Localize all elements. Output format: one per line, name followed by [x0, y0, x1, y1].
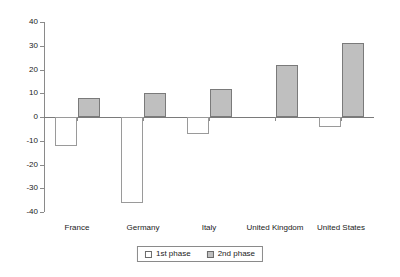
legend-label: 2nd phase	[218, 250, 255, 258]
bar-phase2[interactable]	[342, 43, 364, 117]
y-axis-tick-label: 0	[34, 113, 38, 121]
plot-area: 403020100-10-20-30-40 FranceGermanyItaly…	[44, 22, 374, 212]
bar-phase2[interactable]	[276, 65, 298, 117]
bar-chart: 403020100-10-20-30-40 FranceGermanyItaly…	[0, 0, 400, 277]
y-axis-tick-label: 10	[29, 89, 38, 97]
legend-label: 1st phase	[156, 250, 191, 258]
bar-group: France	[44, 22, 110, 212]
bar-phase1[interactable]	[319, 117, 341, 127]
y-axis-tick-label: 40	[29, 18, 38, 26]
y-axis-tick-label: 30	[29, 42, 38, 50]
bar-group: Italy	[176, 22, 242, 212]
x-axis-label: France	[65, 224, 90, 232]
x-axis-tick	[77, 117, 78, 121]
bar-phase1[interactable]	[121, 117, 143, 203]
x-axis-label: Italy	[202, 224, 217, 232]
y-axis-tick-label: -30	[26, 184, 38, 192]
y-axis-tick-label: -10	[26, 137, 38, 145]
bar-phase2[interactable]	[210, 89, 232, 118]
bar-phase1[interactable]	[187, 117, 209, 134]
x-axis-label: Germany	[127, 224, 160, 232]
chart-legend: 1st phase2nd phase	[137, 246, 263, 262]
x-axis-tick	[341, 117, 342, 121]
bar-group: Germany	[110, 22, 176, 212]
y-axis-tick-label: -20	[26, 161, 38, 169]
y-axis-tick-label: 20	[29, 66, 38, 74]
bar-phase2[interactable]	[78, 98, 100, 117]
x-axis-label: United Kingdom	[247, 224, 304, 232]
legend-item[interactable]: 1st phase	[145, 250, 191, 258]
open-square-swatch	[145, 251, 152, 258]
x-axis-tick	[209, 117, 210, 121]
x-axis-tick	[143, 117, 144, 121]
bar-phase1[interactable]	[55, 117, 77, 146]
bar-group: United States	[308, 22, 374, 212]
legend-item[interactable]: 2nd phase	[207, 250, 255, 258]
bar-group: United Kingdom	[242, 22, 308, 212]
y-axis-tick-label: -40	[26, 208, 38, 216]
y-axis-tick	[40, 212, 44, 213]
x-axis-tick	[275, 117, 276, 121]
x-axis-label: United States	[317, 224, 365, 232]
bar-phase2[interactable]	[144, 93, 166, 117]
filled-square-swatch	[207, 251, 214, 258]
